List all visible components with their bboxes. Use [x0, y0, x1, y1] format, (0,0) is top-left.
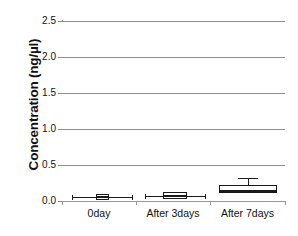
median-0day	[96, 196, 109, 198]
x-tick-mark-1	[136, 201, 137, 205]
y-tick-label-2: 1.0	[22, 123, 56, 134]
plot-area	[62, 21, 285, 201]
y-tick-label-5: 2.5	[22, 15, 56, 26]
y-tick-label-1: 0.5	[22, 159, 56, 170]
boxplot-after-3days	[135, 21, 215, 201]
y-tick-label-4: 2.0	[22, 51, 56, 62]
median-stem-after-7days	[248, 182, 249, 186]
median-after-7days	[219, 190, 277, 192]
boxplot-after-7days	[208, 21, 288, 201]
chart-container: Concentration (ng/µl) 0.0 0.5 1.0 1.5 2.…	[0, 0, 298, 236]
whisker-cap-high-0day	[132, 195, 133, 200]
median-after-3days	[163, 195, 187, 197]
x-tick-mark-2	[210, 201, 211, 205]
x-tick-mark-end	[285, 201, 286, 205]
y-tick-label-3: 1.5	[22, 87, 56, 98]
x-category-label-after-3days: After 3days	[136, 207, 210, 219]
whisker-cap-low-0day	[72, 195, 73, 200]
boxplot-0day	[62, 21, 142, 201]
x-category-label-0day: 0day	[62, 207, 136, 219]
whisker-cap-low-after-3days	[145, 194, 146, 199]
x-tick-mark-start	[62, 201, 63, 205]
x-category-label-after-7days: After 7days	[210, 207, 285, 219]
y-tick-label-0: 0.0	[22, 195, 56, 206]
whisker-cap-high-after-7days	[238, 178, 258, 179]
x-axis-line	[62, 201, 286, 202]
whisker-cap-high-after-3days	[205, 194, 206, 199]
